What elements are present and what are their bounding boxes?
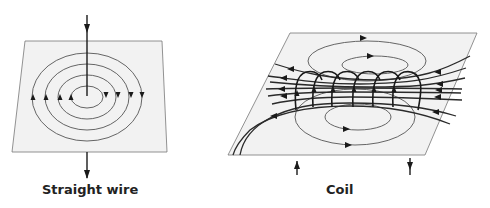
caption-coil: Coil xyxy=(326,182,353,197)
current-arrow-icon xyxy=(84,170,90,179)
caption-straight-wire: Straight wire xyxy=(42,182,138,197)
coil-panel xyxy=(228,33,477,175)
straight-wire-plane xyxy=(12,41,167,152)
current-in-arrow-icon xyxy=(294,161,300,169)
current-out-arrow-icon xyxy=(407,162,413,170)
straight-wire-panel xyxy=(12,15,167,179)
magnetic-field-diagram xyxy=(0,0,490,208)
current-arrow-icon xyxy=(84,24,90,33)
